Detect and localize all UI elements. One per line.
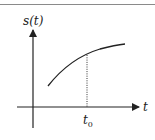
t0-label: t0 bbox=[83, 113, 93, 129]
x-axis-label: t bbox=[143, 100, 148, 114]
y-axis-label: s(t) bbox=[23, 14, 44, 28]
signal-diagram: s(t) t t0 bbox=[0, 0, 155, 140]
